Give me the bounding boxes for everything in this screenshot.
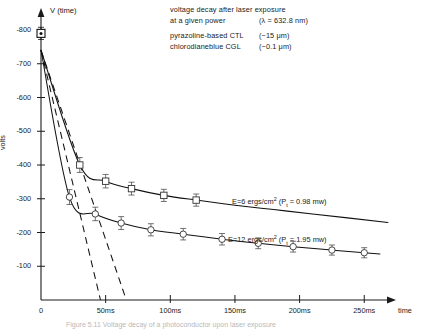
- curve-label-upper-power-open: (P: [277, 197, 286, 206]
- curve-label-upper-power-value: = 0.98 mw): [288, 197, 327, 206]
- header-cgl-thickness: (~0.1 μm): [259, 42, 292, 53]
- y-tick-label: -200: [5, 228, 31, 237]
- curve-label-upper: E=6 ergs/cm2 (Pt = 0.98 mw): [232, 196, 326, 208]
- x-tick-label: 100ms: [150, 306, 190, 315]
- data-points: [37, 27, 367, 258]
- y-tick-label: -500: [5, 126, 31, 135]
- header-wavelength: (λ = 632.8 nm): [259, 16, 308, 27]
- x-tick-label: 50ms: [86, 306, 126, 315]
- x-tick-label: 0: [21, 306, 61, 315]
- x-tick-label: 150ms: [215, 306, 255, 315]
- y-tick-label: -800: [5, 25, 31, 34]
- y-tick-label: -400: [5, 160, 31, 169]
- x-tick-label: 200ms: [280, 306, 320, 315]
- y-tick-label: -300: [5, 194, 31, 203]
- curve-label-upper-energy: E=6 ergs/cm: [232, 197, 274, 206]
- curve-label-lower-power-open: (P: [277, 235, 286, 244]
- x-axis-ticks: [106, 295, 365, 303]
- y-axis-title: V (time): [50, 6, 77, 15]
- x-axis-arrow: [387, 297, 396, 304]
- axes: [37, 8, 396, 303]
- decay-curve-upper: [41, 50, 388, 222]
- decay-curve-lower: [41, 50, 380, 254]
- header-cgl-material: chlorodianeblue CGL: [170, 42, 241, 53]
- y-tick-label: -700: [5, 59, 31, 68]
- curve-label-lower-power-value: = 1.95 mw): [288, 235, 327, 244]
- initial-slope-tangent-lower: [41, 50, 100, 300]
- decay-curves: [41, 50, 388, 254]
- figure-caption: Figure 5.11 Voltage decay of a photocond…: [66, 321, 366, 330]
- curve-label-lower: E=12 ergs/cm2 (Pt = 1.95 mw): [228, 234, 327, 246]
- header-line-1: voltage decay after laser exposure: [170, 5, 286, 16]
- y-tick-label: -600: [5, 93, 31, 102]
- header-ctl-thickness: (~15 μm): [259, 31, 290, 42]
- tangent-lines: [41, 50, 126, 300]
- y-axis-arrow: [38, 8, 45, 17]
- curve-label-lower-energy: E=12 ergs/cm: [228, 235, 274, 244]
- y-axis-unit-label: volts: [0, 135, 7, 150]
- header-line-2: at a given power: [170, 16, 225, 27]
- y-tick-label: -100: [5, 261, 31, 270]
- header-ctl-material: pyrazoline-based CTL: [170, 31, 244, 42]
- x-axis-title: time: [398, 306, 412, 315]
- initial-slope-tangent-upper: [41, 50, 126, 300]
- x-tick-label: 250ms: [344, 306, 384, 315]
